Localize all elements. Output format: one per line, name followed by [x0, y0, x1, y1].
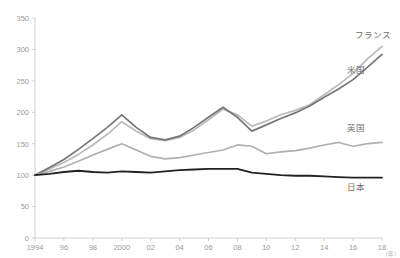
chart-container: 050100150200250300350 199496982000020406… — [0, 0, 400, 258]
y-tick-label: 300 — [16, 45, 29, 54]
x-tick-label: 1994 — [27, 243, 44, 252]
x-axis-ticks: 199496982000020406081012141618 — [27, 238, 387, 252]
y-tick-label: 50 — [21, 202, 29, 211]
x-tick-label: 04 — [175, 243, 183, 252]
series-line — [35, 142, 382, 175]
x-axis-unit-label: (年) — [386, 250, 396, 258]
y-tick-label: 200 — [16, 108, 29, 117]
series-label: 米国 — [347, 65, 365, 75]
series-label: フランス — [355, 30, 391, 40]
x-tick-label: 02 — [146, 243, 154, 252]
x-tick-label: 16 — [349, 243, 357, 252]
x-tick-label: 98 — [89, 243, 97, 252]
line-chart-plot: 050100150200250300350 199496982000020406… — [0, 0, 400, 258]
series-line — [35, 169, 382, 178]
series-label: 英国 — [347, 123, 365, 133]
x-tick-label: 06 — [204, 243, 212, 252]
series-labels: フランス米国英国日本 — [347, 30, 390, 191]
y-tick-label: 0 — [25, 234, 29, 243]
x-tick-label: 96 — [60, 243, 68, 252]
x-tick-label: 08 — [233, 243, 241, 252]
y-tick-label: 250 — [16, 77, 29, 86]
series-line — [35, 46, 382, 175]
x-tick-label: 14 — [320, 243, 328, 252]
y-tick-label: 350 — [16, 14, 29, 23]
y-tick-label: 150 — [16, 140, 29, 149]
series-lines — [35, 46, 382, 177]
x-tick-label: 10 — [262, 243, 270, 252]
series-label: 日本 — [347, 182, 365, 192]
x-tick-label: 2000 — [113, 243, 130, 252]
y-axis-ticks: 050100150200250300350 — [16, 14, 35, 243]
x-tick-label: 12 — [291, 243, 299, 252]
y-tick-label: 100 — [16, 171, 29, 180]
